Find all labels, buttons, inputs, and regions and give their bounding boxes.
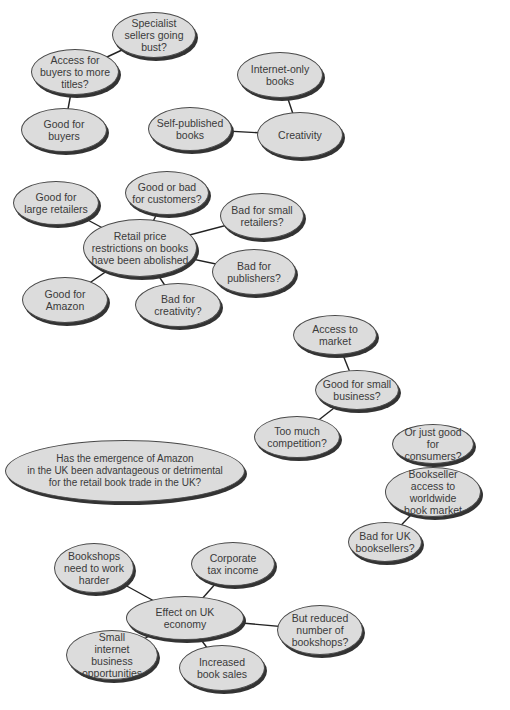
- node-good-large-retailers: Good for large retailers: [13, 181, 99, 225]
- node-label: Bad for small retailers?: [231, 204, 292, 228]
- node-good-bad-customers: Good or bad for customers?: [125, 171, 209, 215]
- node-label: Small internet business opportunities: [73, 631, 151, 679]
- node-label: Creativity: [278, 129, 322, 141]
- node-label: Has the emergence of Amazon in the UK be…: [27, 453, 223, 489]
- node-bookshops-harder: Bookshops need to work harder: [54, 543, 134, 593]
- node-label: Good for small business?: [323, 378, 391, 402]
- node-label: Increased book sales: [197, 656, 247, 680]
- node-retail-price: Retail price restrictions on books have …: [83, 219, 197, 277]
- node-main-question: Has the emergence of Amazon in the UK be…: [5, 440, 245, 502]
- node-label: Or just good for consumers?: [399, 426, 467, 462]
- node-label: Internet-only books: [251, 63, 309, 87]
- node-label: Too much competition?: [267, 425, 327, 449]
- node-label: Bad for creativity?: [154, 293, 201, 317]
- node-label: Corporate tax income: [208, 552, 259, 576]
- node-label: Bookshops need to work harder: [64, 550, 124, 586]
- node-label: Specialist sellers going bust?: [125, 17, 184, 53]
- node-good-consumers: Or just good for consumers?: [392, 424, 474, 464]
- node-label: Good for large retailers: [24, 191, 88, 215]
- node-good-small-business: Good for small business?: [315, 370, 399, 410]
- node-label: Access for buyers to more titles?: [40, 54, 110, 90]
- node-label: Good for Amazon: [45, 288, 86, 312]
- node-bad-uk-booksellers: Bad for UK booksellers?: [348, 522, 422, 562]
- node-good-buyers: Good for buyers: [21, 108, 107, 152]
- node-label: Bookseller access to worldwide book mark…: [392, 468, 474, 516]
- node-label: But reduced number of bookshops?: [292, 612, 349, 648]
- node-label: Effect on UK economy: [133, 606, 237, 630]
- node-corporate-tax: Corporate tax income: [191, 542, 275, 586]
- node-bad-small-retailers: Bad for small retailers?: [220, 193, 304, 239]
- node-bookseller-access: Bookseller access to worldwide book mark…: [385, 467, 481, 517]
- node-specialist: Specialist sellers going bust?: [112, 12, 196, 58]
- connector-lines: [0, 0, 510, 710]
- node-too-much-competition: Too much competition?: [254, 416, 340, 458]
- node-label: Good for buyers: [44, 118, 85, 142]
- mind-map-canvas: Specialist sellers going bust?Access for…: [0, 0, 510, 710]
- node-bad-publishers: Bad for publishers?: [212, 249, 296, 295]
- node-self-published: Self-published books: [148, 107, 232, 151]
- node-creativity: Creativity: [257, 112, 343, 158]
- node-access-market: Access to market: [293, 315, 377, 355]
- node-label: Access to market: [312, 323, 358, 347]
- node-bad-creativity: Bad for creativity?: [135, 283, 221, 327]
- node-internet-only: Internet-only books: [237, 52, 323, 98]
- node-small-internet: Small internet business opportunities: [66, 630, 158, 680]
- node-increased-sales: Increased book sales: [179, 645, 265, 691]
- node-access-titles: Access for buyers to more titles?: [31, 49, 119, 95]
- node-label: Self-published books: [157, 117, 224, 141]
- node-label: Bad for UK booksellers?: [356, 530, 415, 554]
- node-label: Good or bad for customers?: [132, 181, 201, 205]
- node-label: Retail price restrictions on books have …: [92, 230, 189, 266]
- node-reduced-bookshops: But reduced number of bookshops?: [277, 605, 363, 655]
- node-label: Bad for publishers?: [227, 260, 281, 284]
- node-good-amazon: Good for Amazon: [22, 277, 108, 323]
